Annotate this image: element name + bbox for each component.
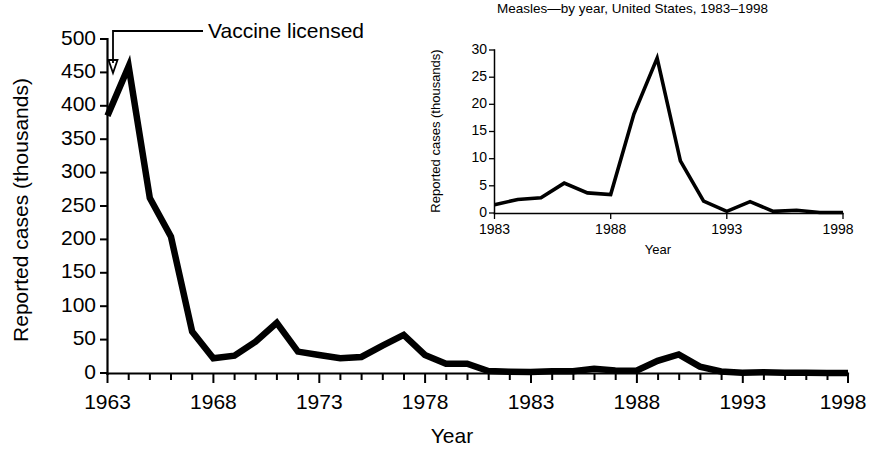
main-x-tick-label: 1968 [190, 390, 237, 413]
main-y-tick-label: 400 [61, 92, 96, 115]
main-y-tick-label: 300 [61, 159, 96, 182]
main-y-tick-label: 250 [61, 193, 96, 216]
inset-y-ticks [489, 50, 495, 213]
main-x-axis-title: Year [431, 424, 473, 447]
main-y-tick-label: 100 [61, 293, 96, 316]
main-x-tick-label: 1963 [84, 390, 131, 413]
inset-y-tick-label: 5 [479, 177, 487, 193]
main-x-tick-label: 1973 [296, 390, 343, 413]
vaccine-licensed-annotation: Vaccine licensed [109, 19, 365, 73]
main-x-tick-label: 1983 [508, 390, 555, 413]
inset-y-tick-label: 15 [471, 122, 487, 138]
inset-x-ticks [495, 214, 844, 220]
main-data-line [108, 66, 849, 373]
annotation-label: Vaccine licensed [208, 19, 364, 42]
inset-x-tick-label: 1983 [479, 221, 510, 237]
inset-y-tick-label: 0 [479, 204, 487, 220]
main-x-tick-label: 1998 [820, 390, 867, 413]
main-x-tick-label: 1988 [614, 390, 661, 413]
main-y-tick-label: 200 [61, 226, 96, 249]
main-y-tick-label: 50 [73, 326, 96, 349]
measles-chart-figure: Reported cases (thousands) 500 450 400 3… [0, 0, 871, 453]
inset-data-line [495, 58, 844, 212]
inset-y-axis-title: Reported cases (thousands) [428, 49, 443, 212]
main-y-tick-label: 500 [61, 26, 96, 49]
inset-title: Measles—by year, United States, 1983–199… [497, 1, 768, 16]
figure-root: Reported cases (thousands) 500 450 400 3… [0, 0, 871, 453]
inset-y-tick-label: 10 [471, 149, 487, 165]
inset-x-axis-title: Year [645, 242, 672, 257]
inset-y-tick-label: 25 [471, 68, 487, 84]
main-y-tick-label: 0 [84, 360, 96, 383]
main-y-tick-label: 450 [61, 59, 96, 82]
main-y-axis-title: Reported cases (thousands) [9, 78, 32, 342]
main-y-tick-label: 350 [61, 126, 96, 149]
main-y-ticks [100, 39, 108, 373]
inset-x-tick-label: 1998 [822, 221, 853, 237]
inset-y-tick-label: 30 [471, 41, 487, 57]
main-x-tick-label: 1993 [719, 390, 766, 413]
inset-y-tick-label: 20 [471, 95, 487, 111]
main-x-tick-label: 1978 [402, 390, 449, 413]
inset-y-tick-labels: 30 25 20 15 10 5 0 [471, 41, 487, 220]
inset-x-tick-label: 1993 [711, 221, 742, 237]
main-x-tick-labels: 1963 1968 1973 1978 1983 1988 1993 1998 [84, 390, 866, 413]
annotation-leader-line [113, 31, 203, 63]
inset-chart: Measles—by year, United States, 1983–199… [428, 1, 853, 258]
main-y-tick-labels: 500 450 400 350 300 250 200 150 100 50 0 [61, 26, 96, 383]
inset-x-tick-labels: 1983 1988 1993 1998 [479, 221, 854, 237]
main-y-tick-label: 150 [61, 259, 96, 282]
inset-x-tick-label: 1988 [595, 221, 626, 237]
